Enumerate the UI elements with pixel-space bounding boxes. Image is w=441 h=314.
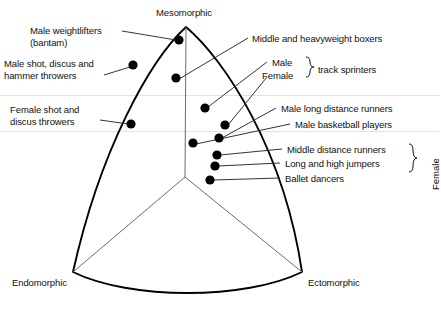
label-male-throwers-line2: hammer throwers bbox=[4, 70, 76, 82]
data-point-middle-distance bbox=[212, 150, 221, 159]
data-point-boxers bbox=[171, 73, 180, 82]
female-group-label: Female bbox=[430, 158, 441, 190]
data-point-male-long-distance bbox=[214, 133, 223, 142]
leader-sprinters-male bbox=[208, 62, 267, 107]
data-point-male-basketball bbox=[188, 138, 197, 147]
data-point-female-sprinters bbox=[220, 120, 229, 129]
data-point-female-throwers bbox=[126, 119, 135, 128]
axis-line-ectomorphic bbox=[185, 177, 302, 272]
female-group-bracket-glyph bbox=[409, 144, 417, 172]
data-point-male-weightlifters bbox=[174, 35, 183, 44]
data-point-male-sprinters bbox=[200, 103, 209, 112]
label-male-weightlifters-line1: Male weightlifters bbox=[30, 25, 102, 37]
leader-jumpers bbox=[218, 163, 280, 166]
label-sprinters-female: Female bbox=[262, 70, 293, 82]
label-ballet: Ballet dancers bbox=[285, 173, 344, 185]
axis-line-endomorphic bbox=[73, 177, 185, 272]
label-jumpers: Long and high jumpers bbox=[285, 158, 380, 170]
leader-middle-distance bbox=[220, 149, 282, 155]
label-female-throwers-line1: Female shot and bbox=[10, 104, 79, 116]
vertex-label-endomorphic: Endomorphic bbox=[12, 277, 67, 289]
label-sprinters-male: Male bbox=[272, 57, 292, 69]
label-male-long-distance: Male long distance runners bbox=[281, 103, 392, 115]
vertex-label-mesomorphic: Mesomorphic bbox=[156, 7, 212, 19]
leader-male-basketball bbox=[196, 124, 290, 144]
label-female-throwers-line2: discus throwers bbox=[10, 116, 75, 128]
axis-line-mesomorphic bbox=[185, 27, 186, 177]
leader-boxers bbox=[179, 38, 248, 79]
label-male-throwers-line1: Male shot, discus and bbox=[4, 58, 94, 70]
label-sprinters-group: track sprinters bbox=[318, 64, 376, 76]
data-point-male-throwers bbox=[128, 60, 137, 69]
label-middle-distance: Middle distance runners bbox=[287, 144, 386, 156]
somatotype-outline bbox=[73, 27, 302, 293]
leader-lines-left bbox=[100, 31, 176, 124]
label-boxers: Middle and heavyweight boxers bbox=[252, 33, 382, 45]
label-male-basketball: Male basketball players bbox=[295, 119, 392, 131]
leader-male-weightlifters bbox=[122, 31, 176, 40]
leader-ballet bbox=[213, 178, 280, 180]
sprinter-bracket-glyph bbox=[306, 57, 314, 77]
data-point-ballet bbox=[205, 175, 214, 184]
leader-male-throwers bbox=[104, 67, 130, 75]
vertex-label-ectomorphic: Ectomorphic bbox=[308, 277, 360, 289]
data-point-jumpers bbox=[210, 161, 219, 170]
label-male-weightlifters-line2: (bantam) bbox=[30, 37, 67, 49]
